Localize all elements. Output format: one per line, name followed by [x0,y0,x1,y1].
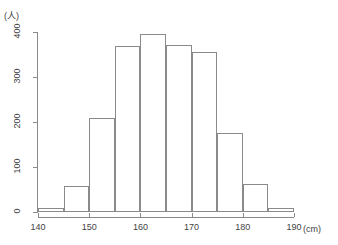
histogram-bar [166,45,192,212]
y-tick [33,167,37,168]
y-tick [33,212,37,213]
x-tick [140,213,141,217]
y-tick [33,77,37,78]
histogram-bar [192,52,218,212]
histogram-bar [64,186,90,212]
histogram-bar [140,34,166,212]
x-tick [243,213,244,217]
x-axis-unit-label: (cm) [303,224,321,234]
y-tick-label: 200 [12,108,22,134]
plot-area: 0100200300400 140150160170180190 [0,0,338,245]
x-tick-label: 160 [125,222,155,232]
x-tick [89,213,90,217]
histogram-bar [38,208,64,212]
y-tick-label: 100 [12,153,22,179]
x-tick [192,213,193,217]
x-axis-line [38,217,294,218]
histogram-bar [115,46,141,213]
y-tick-label: 300 [12,63,22,89]
x-tick-label: 140 [23,222,53,232]
histogram-bar [217,133,243,212]
histogram-bar [243,184,269,212]
x-tick [38,213,39,217]
x-tick-label: 170 [177,222,207,232]
y-axis-line [37,32,38,213]
y-tick-label: 400 [12,18,22,44]
y-tick [33,122,37,123]
x-tick-label: 150 [74,222,104,232]
histogram-bar [89,118,115,213]
x-tick-label: 180 [228,222,258,232]
y-tick-label: 0 [12,198,22,224]
histogram-chart: (人) 0100200300400 140150160170180190 (cm… [0,0,338,245]
y-tick [33,32,37,33]
histogram-bar [268,208,294,213]
x-tick [294,213,295,217]
